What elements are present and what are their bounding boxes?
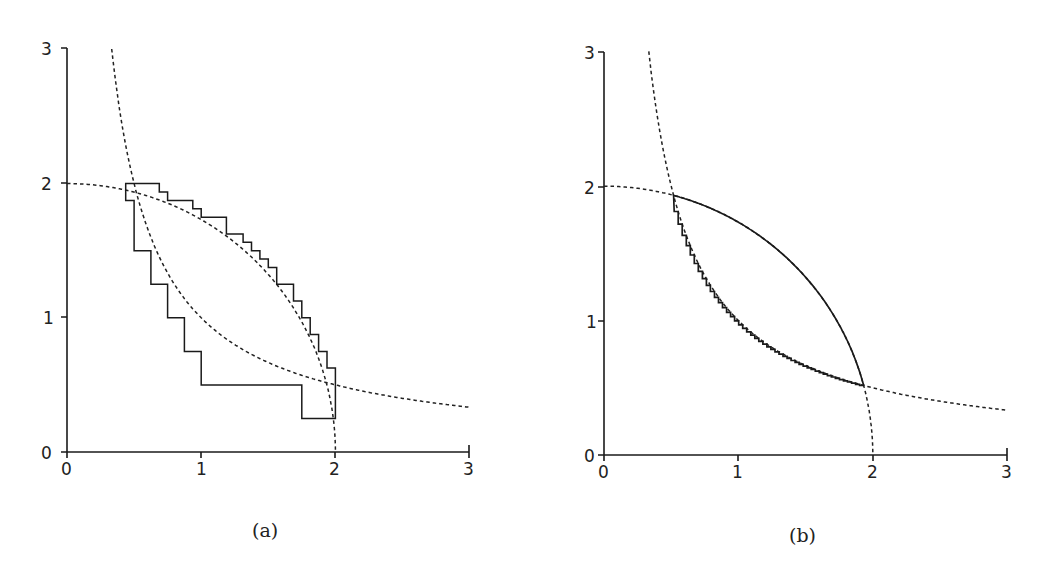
panel-a-staircase [126, 184, 336, 419]
panel-b-xtick-0: 0 [598, 462, 609, 482]
figure: 3 2 1 0 0 1 2 3 (a) 3 2 1 0 0 1 2 3 (b) [0, 0, 1041, 575]
panel-a-xtick-3: 3 [463, 459, 474, 479]
panel-a-xtick-2: 2 [329, 459, 340, 479]
panel-a-ytick-1: 1 [43, 308, 54, 328]
panel-a-hyperbola-curve [112, 49, 470, 407]
panel-b-plot: 3 2 1 0 0 1 2 3 (b) [584, 43, 1012, 546]
panel-b-ytick-2: 2 [584, 178, 595, 198]
panel-b-lens-boundary [674, 195, 864, 385]
panel-a-ytick-2: 2 [41, 174, 52, 194]
panel-b-xtick-2: 2 [867, 462, 878, 482]
panel-b-ticks [598, 52, 1007, 461]
panel-a-xtick-1: 1 [196, 459, 207, 479]
panel-b-caption: (b) [789, 524, 816, 546]
panel-a-ticks [61, 48, 469, 458]
panel-a-caption: (a) [252, 519, 278, 541]
panel-b-ytick-0: 0 [584, 446, 595, 466]
panel-b-ytick-1: 1 [586, 312, 597, 332]
panel-a-xtick-0: 0 [61, 459, 72, 479]
panel-b-hyperbola-curve [649, 51, 1007, 410]
panel-b-xtick-3: 3 [1001, 462, 1012, 482]
panel-a-plot: 3 2 1 0 0 1 2 3 (a) [41, 39, 474, 541]
panel-b-xtick-1: 1 [732, 462, 743, 482]
panel-b-ytick-3: 3 [584, 43, 595, 63]
panel-a-ytick-0: 0 [41, 443, 52, 463]
panel-a-ytick-3: 3 [41, 39, 52, 59]
